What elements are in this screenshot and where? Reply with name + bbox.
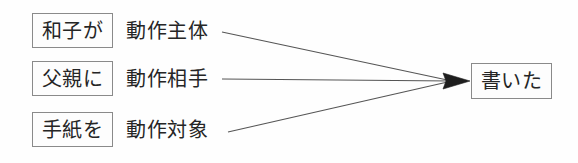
- connector-line-object: [228, 81, 452, 132]
- semantic-role-label-2: 動作相手: [126, 61, 220, 96]
- case-phrase-label-3: 手紙を: [42, 120, 104, 140]
- case-phrase-box-3[interactable]: 手紙を: [32, 112, 113, 147]
- connector-line-recipient: [222, 79, 452, 81]
- predicate-label: 書いた: [481, 71, 543, 91]
- semantic-role-text-2: 動作相手: [126, 69, 208, 89]
- arrowhead-icon: [443, 73, 470, 89]
- semantic-role-label-3: 動作対象: [126, 112, 220, 147]
- case-phrase-label-1: 和子が: [42, 21, 104, 41]
- case-phrase-box-1[interactable]: 和子が: [32, 13, 113, 48]
- semantic-role-text-1: 動作主体: [126, 21, 208, 41]
- diagram-canvas: 和子が 父親に 手紙を 動作主体 動作相手 動作対象 書いた: [0, 0, 578, 163]
- semantic-role-text-3: 動作対象: [126, 120, 208, 140]
- case-phrase-box-2[interactable]: 父親に: [32, 61, 113, 96]
- semantic-role-label-1: 動作主体: [126, 13, 220, 48]
- connector-line-agent: [222, 32, 452, 81]
- predicate-box[interactable]: 書いた: [471, 63, 552, 99]
- case-phrase-label-2: 父親に: [42, 69, 104, 89]
